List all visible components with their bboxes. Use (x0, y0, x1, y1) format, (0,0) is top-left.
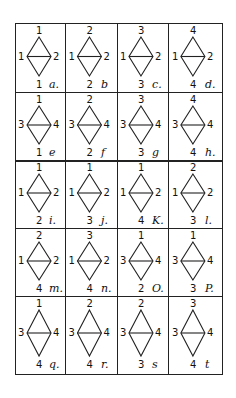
vertex-right-label: 4 (207, 328, 213, 338)
vertex-top-label: 2 (86, 95, 92, 105)
cell-letter-label: h. (205, 147, 216, 158)
vertex-bottom-label: 2 (36, 216, 42, 226)
vertex-bottom-label: 4 (190, 360, 196, 370)
vertex-top-label: 2 (86, 299, 92, 309)
vertex-bottom-label: 3 (86, 216, 92, 226)
vertex-bottom-label: 4 (86, 284, 92, 294)
diagram-cell: 3344t (168, 297, 221, 373)
vertex-top-label: 2 (36, 231, 42, 241)
vertex-left-label: 1 (68, 256, 74, 266)
vertex-left-label: 1 (68, 188, 74, 198)
vertex-right-label: 4 (53, 120, 59, 130)
cell-letter-label: g (152, 147, 159, 158)
vertex-top-label: 1 (190, 231, 196, 241)
vertex-top-label: 3 (86, 231, 92, 241)
vertex-top-label: 1 (36, 95, 42, 105)
diagram-cell: 3343g (117, 93, 168, 161)
vertex-right-label: 4 (103, 120, 109, 130)
diagram-cell: 2342f (65, 93, 117, 161)
vertex-left-label: 1 (18, 256, 24, 266)
vertex-left-label: 3 (172, 328, 178, 338)
vertex-right-label: 4 (155, 120, 161, 130)
vertex-left-label: 3 (172, 120, 178, 130)
cell-letter-label: K. (152, 215, 164, 226)
diagram-cell: 1122i. (16, 161, 65, 229)
cell-letter-label: t (205, 359, 209, 370)
vertex-top-label: 1 (36, 299, 42, 309)
vertex-right-label: 4 (53, 328, 59, 338)
vertex-right-label: 2 (103, 188, 109, 198)
diagram-cell: 1343P. (168, 229, 221, 297)
vertex-bottom-label: 4 (190, 80, 196, 90)
vertex-left-label: 3 (18, 328, 24, 338)
diagram-cell: 1124K. (117, 161, 168, 229)
vertex-bottom-label: 4 (36, 360, 42, 370)
cell-letter-label: d. (205, 79, 216, 90)
vertex-left-label: 3 (120, 120, 126, 130)
diagram-cell: 3123c. (117, 24, 168, 93)
vertex-right-label: 2 (103, 256, 109, 266)
vertex-bottom-label: 4 (190, 148, 196, 158)
vertex-right-label: 4 (103, 328, 109, 338)
vertex-top-label: 1 (138, 163, 144, 173)
vertex-right-label: 2 (53, 256, 59, 266)
vertex-bottom-label: 3 (190, 216, 196, 226)
vertex-top-label: 1 (138, 231, 144, 241)
vertex-bottom-label: 2 (86, 80, 92, 90)
diagram-cell: 4124d. (168, 24, 221, 93)
diagram-cell: 1123j. (65, 161, 117, 229)
vertex-left-label: 1 (120, 188, 126, 198)
cell-letter-label: n. (101, 283, 112, 294)
vertex-left-label: 3 (68, 328, 74, 338)
vertex-top-label: 4 (190, 95, 196, 105)
diagram-cell: 3124n. (65, 229, 117, 297)
cell-letter-label: i. (49, 215, 56, 226)
vertex-left-label: 3 (120, 256, 126, 266)
cell-letter-label: a. (49, 79, 59, 90)
vertex-right-label: 2 (155, 188, 161, 198)
vertex-top-label: 1 (36, 26, 42, 36)
vertex-right-label: 2 (207, 188, 213, 198)
diagram-cell: 1341e (16, 93, 65, 161)
cell-letter-label: O. (152, 283, 164, 294)
cell-letter-label: j. (101, 215, 108, 226)
vertex-top-label: 4 (190, 26, 196, 36)
vertex-top-label: 1 (86, 163, 92, 173)
vertex-bottom-label: 3 (138, 80, 144, 90)
cell-letter-label: l. (205, 215, 212, 226)
vertex-right-label: 2 (103, 52, 109, 62)
cell-letter-label: f (101, 147, 105, 158)
vertex-bottom-label: 2 (86, 148, 92, 158)
vertex-bottom-label: 2 (138, 284, 144, 294)
vertex-left-label: 3 (120, 328, 126, 338)
vertex-right-label: 2 (155, 52, 161, 62)
cell-letter-label: e (49, 147, 56, 158)
vertex-right-label: 4 (155, 256, 161, 266)
vertex-right-label: 4 (155, 328, 161, 338)
diagram-cell: 1342O. (117, 229, 168, 297)
vertex-bottom-label: 1 (36, 80, 42, 90)
cell-letter-label: r. (101, 359, 109, 370)
cell-letter-label: q. (49, 359, 60, 370)
vertex-right-label: 2 (207, 52, 213, 62)
vertex-left-label: 1 (172, 188, 178, 198)
vertex-bottom-label: 4 (138, 216, 144, 226)
cell-letter-label: m. (49, 283, 63, 294)
vertex-bottom-label: 4 (36, 284, 42, 294)
vertex-top-label: 3 (138, 95, 144, 105)
vertex-left-label: 3 (172, 256, 178, 266)
diagram-cell: 1344q. (16, 297, 65, 373)
vertex-top-label: 2 (138, 299, 144, 309)
diagram-cell: 2344r. (65, 297, 117, 373)
vertex-top-label: 3 (138, 26, 144, 36)
vertex-top-label: 1 (36, 163, 42, 173)
vertex-left-label: 1 (18, 52, 24, 62)
vertex-left-label: 1 (172, 52, 178, 62)
vertex-bottom-label: 4 (86, 360, 92, 370)
vertex-bottom-label: 3 (190, 284, 196, 294)
vertex-bottom-label: 3 (138, 360, 144, 370)
diagram-grid: 1121a.2122b3123c.4124d.1341e2342f3343g43… (15, 23, 223, 375)
diagram-cell: 2122b (65, 24, 117, 93)
vertex-right-label: 2 (53, 188, 59, 198)
vertex-right-label: 2 (53, 52, 59, 62)
